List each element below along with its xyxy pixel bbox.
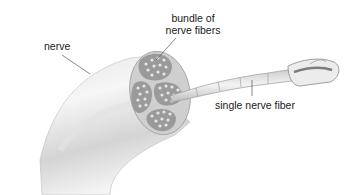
label-bundle-line2: nerve fibers <box>157 24 229 36</box>
label-bundle-of-nerve-fibers: bundle of nerve fibers <box>157 12 229 36</box>
label-bundle-line1: bundle of <box>157 12 229 24</box>
label-nerve: nerve <box>44 40 70 52</box>
label-single-nerve-fiber: single nerve fiber <box>215 99 295 111</box>
nerve-diagram: nerve bundle of nerve fibers single nerv… <box>0 0 360 195</box>
single-nerve-fiber <box>170 59 339 102</box>
